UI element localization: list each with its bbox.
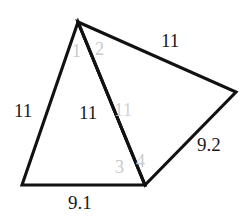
angle-label-four: 4 (136, 152, 145, 170)
side-label-lower-right: 9.2 (197, 135, 221, 154)
side-label-cevian: 11 (79, 103, 97, 122)
angle-label-two: 2 (95, 40, 104, 58)
geometry-figure: 11 11 11 9.2 9.1 1 2 3 4 11 (0, 0, 251, 221)
ghost-label-cevian-echo: 11 (114, 100, 132, 119)
angle-label-three: 3 (115, 158, 124, 176)
side-label-bottom: 9.1 (68, 193, 92, 212)
side-label-left: 11 (14, 101, 32, 120)
angle-label-one: 1 (72, 42, 81, 60)
side-label-top-right: 11 (161, 31, 179, 50)
